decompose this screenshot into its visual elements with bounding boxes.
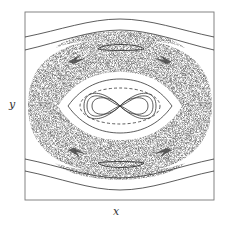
x-axis-label: x [113, 205, 119, 218]
y-axis-label: y [9, 98, 15, 111]
phase-portrait-plot [0, 0, 226, 227]
